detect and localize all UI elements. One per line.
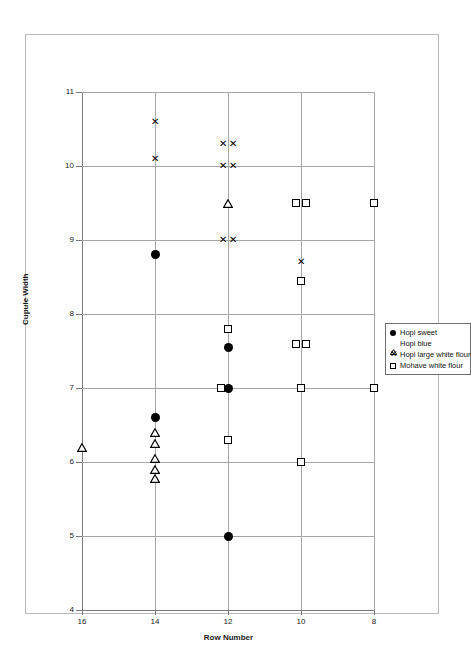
open-square-icon (370, 199, 378, 207)
legend-item-square[interactable]: Mohave white flour (388, 360, 467, 371)
y-axis-tick-label-wrap: 9 (46, 236, 74, 244)
x-axis-tick-label: 14 (140, 618, 170, 626)
y-axis-tick (76, 314, 82, 315)
open-triangle-icon (150, 454, 160, 463)
y-axis-tick-label-wrap: 10 (46, 162, 74, 170)
legend-item-triangle[interactable]: Hopi blue (388, 338, 467, 349)
open-square-icon (217, 384, 225, 392)
y-axis-tick-label-wrap: 5 (46, 532, 74, 540)
legend-item-x[interactable]: ✕Hopi large white flour (388, 349, 467, 360)
open-square-icon (302, 340, 310, 348)
open-square-icon (297, 277, 305, 285)
x-axis-tick (82, 610, 83, 615)
x-cross-icon: ✕ (388, 349, 399, 360)
legend: Hopi sweetHopi blue✕Hopi large white flo… (385, 323, 471, 375)
x-axis-tick (228, 610, 229, 615)
x-cross-icon: ✕ (218, 139, 228, 149)
y-axis-tick (76, 388, 82, 389)
y-axis-tick-label: 4 (50, 606, 74, 614)
x-axis-tick-label: 12 (213, 618, 243, 626)
open-square-icon (370, 384, 378, 392)
open-triangle-icon (223, 199, 233, 208)
legend-item-label: Mohave white flour (400, 360, 463, 371)
y-axis-tick (76, 536, 82, 537)
gridline-vertical (155, 92, 156, 610)
y-axis-line (82, 92, 83, 611)
open-square-icon (297, 458, 305, 466)
legend-item-label: Hopi large white flour (400, 349, 470, 360)
x-cross-icon: ✕ (218, 161, 228, 171)
x-axis-tick (374, 610, 375, 615)
legend-item-label: Hopi blue (400, 338, 432, 349)
x-cross-icon: ✕ (228, 161, 238, 171)
y-axis-tick (76, 240, 82, 241)
figure-frame: 4567891011161412108 ✕✕✕✕✕✕✕✕✕ Cupule Wid… (25, 34, 439, 614)
y-axis-tick-label-wrap: 8 (46, 310, 74, 318)
y-axis-tick-label-wrap: 6 (46, 458, 74, 466)
y-axis-tick-label: 8 (50, 310, 74, 318)
gridline-vertical (374, 92, 375, 610)
y-axis-tick-label-wrap: 4 (46, 606, 74, 614)
open-square-icon (292, 199, 300, 207)
x-cross-icon: ✕ (228, 139, 238, 149)
y-axis-tick (76, 166, 82, 167)
open-triangle-icon (150, 428, 160, 437)
open-triangle-icon (150, 474, 160, 483)
legend-item-label: Hopi sweet (400, 327, 437, 338)
filled-circle-icon (151, 250, 160, 259)
x-cross-icon: ✕ (228, 235, 238, 245)
x-cross-icon: ✕ (218, 235, 228, 245)
x-axis-tick (301, 610, 302, 615)
open-triangle-icon (150, 465, 160, 474)
gridline-vertical (301, 92, 302, 610)
y-axis-tick-label: 10 (50, 162, 74, 170)
filled-circle-icon (151, 413, 160, 422)
y-axis-tick-label: 5 (50, 532, 74, 540)
open-square-icon (302, 199, 310, 207)
legend-item-circle[interactable]: Hopi sweet (388, 327, 467, 338)
x-axis-title: Row Number (82, 633, 375, 642)
open-square-icon (224, 325, 232, 333)
open-triangle-icon (388, 338, 399, 349)
open-triangle-icon (77, 443, 87, 452)
y-axis-tick-label-wrap: 7 (46, 384, 74, 392)
open-square-icon (388, 360, 399, 371)
x-axis-tick-label: 10 (286, 618, 316, 626)
filled-circle-icon (224, 343, 233, 352)
open-triangle-icon (150, 439, 160, 448)
x-axis-tick-label: 8 (359, 618, 389, 626)
y-axis-tick-label: 7 (50, 384, 74, 392)
y-axis-tick-label: 11 (50, 88, 74, 96)
y-axis-tick-label: 9 (50, 236, 74, 244)
open-square-icon (292, 340, 300, 348)
filled-circle-icon (388, 327, 399, 338)
open-square-icon (297, 384, 305, 392)
y-axis-tick-label: 6 (50, 458, 74, 466)
y-axis-title: Cupule Width (21, 274, 30, 325)
y-axis-tick-label-wrap: 11 (46, 88, 74, 96)
y-axis-tick (76, 462, 82, 463)
x-cross-icon: ✕ (150, 154, 160, 164)
x-cross-icon: ✕ (296, 257, 306, 267)
x-axis-tick-label: 16 (67, 618, 97, 626)
open-square-icon (224, 436, 232, 444)
x-axis-tick (155, 610, 156, 615)
y-axis-tick (76, 92, 82, 93)
x-cross-icon: ✕ (150, 117, 160, 127)
filled-circle-icon (224, 532, 233, 541)
